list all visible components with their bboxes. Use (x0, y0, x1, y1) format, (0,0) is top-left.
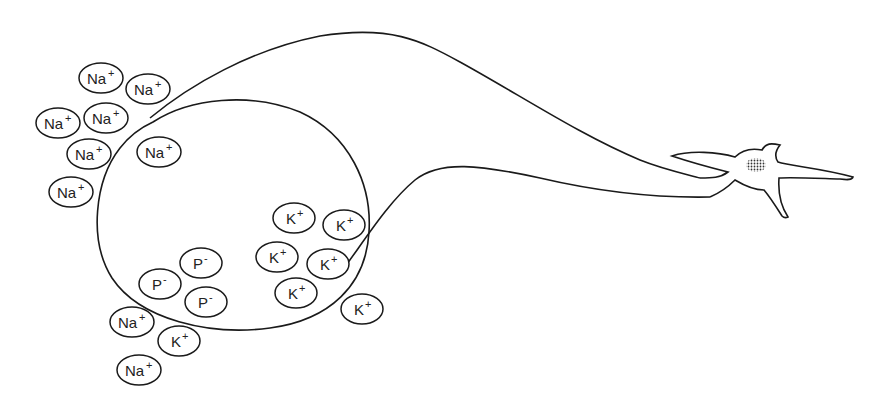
ions-layer: Na+Na+Na+Na+Na+Na+Na+K+K+K+K+K+K+P-P-P-N… (36, 63, 383, 385)
ion-p-minus: P- (180, 248, 222, 278)
ion-charge: + (113, 107, 119, 119)
ion-label: Na (118, 314, 138, 331)
ion-na-plus: Na+ (67, 139, 111, 169)
ion-k-plus: K+ (323, 210, 365, 240)
ion-p-minus: P- (139, 269, 181, 299)
ion-k-plus: K+ (158, 326, 200, 356)
ion-label: K (286, 210, 296, 227)
ion-k-plus: K+ (341, 294, 383, 324)
ion-label: P (152, 276, 162, 293)
ion-na-plus: Na+ (49, 177, 93, 207)
ion-charge: - (204, 252, 208, 264)
ion-charge: + (347, 214, 353, 226)
ion-charge: + (280, 246, 286, 258)
ion-charge: + (65, 112, 71, 124)
ion-k-plus: K+ (256, 242, 298, 272)
ion-na-plus: Na+ (137, 137, 181, 167)
ion-label: K (320, 256, 330, 273)
ion-label: K (171, 333, 181, 350)
ion-charge: - (209, 291, 213, 303)
ion-label: Na (134, 81, 154, 98)
ion-label: Na (145, 144, 165, 161)
ion-charge: + (78, 181, 84, 193)
cell-lower-contour (338, 167, 710, 276)
small-neuron (672, 144, 853, 218)
ion-charge: - (163, 273, 167, 285)
ion-charge: + (155, 78, 161, 90)
ion-label: Na (75, 146, 95, 163)
ion-charge: + (297, 207, 303, 219)
ion-label: K (288, 285, 298, 302)
ion-label: K (336, 217, 346, 234)
ion-charge: + (139, 311, 145, 323)
ion-charge: + (146, 359, 152, 371)
ion-charge: + (96, 143, 102, 155)
ion-label: Na (87, 70, 107, 87)
ion-charge: + (299, 282, 305, 294)
ion-p-minus: P- (185, 287, 227, 317)
cell-upper-contour (150, 32, 700, 178)
ion-charge: + (166, 141, 172, 153)
ion-na-plus: Na+ (110, 307, 154, 337)
ion-label: K (354, 301, 364, 318)
ion-charge: + (108, 67, 114, 79)
neuron-outline (97, 32, 853, 330)
ion-na-plus: Na+ (79, 63, 123, 93)
ion-charge: + (182, 330, 188, 342)
neuron-ion-diagram: Na+Na+Na+Na+Na+Na+Na+K+K+K+K+K+K+P-P-P-N… (0, 0, 879, 408)
ion-label: Na (44, 115, 64, 132)
ion-na-plus: Na+ (84, 103, 128, 133)
ion-label: P (193, 255, 203, 272)
ion-k-plus: K+ (307, 249, 349, 279)
ion-na-plus: Na+ (117, 355, 161, 385)
ion-na-plus: Na+ (36, 108, 80, 138)
ion-label: Na (57, 184, 77, 201)
ion-charge: + (331, 253, 337, 265)
ion-label: P (198, 294, 208, 311)
ion-label: K (269, 249, 279, 266)
ion-k-plus: K+ (275, 278, 317, 308)
ion-na-plus: Na+ (126, 74, 170, 104)
ion-label: Na (125, 362, 145, 379)
nucleus (746, 158, 766, 172)
ion-charge: + (365, 298, 371, 310)
ion-k-plus: K+ (273, 203, 315, 233)
ion-label: Na (92, 110, 112, 127)
